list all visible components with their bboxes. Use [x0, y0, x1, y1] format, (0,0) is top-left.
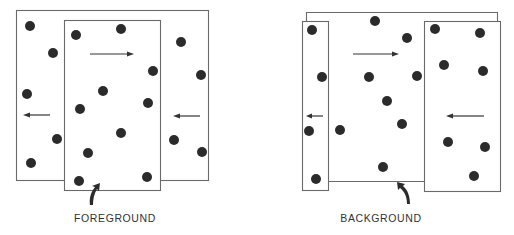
dot — [397, 119, 407, 129]
motion-figure: FOREGROUND — [0, 0, 514, 235]
dot — [364, 72, 374, 82]
dot — [196, 70, 206, 80]
dot — [478, 66, 488, 76]
dot — [307, 25, 317, 35]
dot — [378, 162, 388, 172]
background-label: BACKGROUND — [340, 212, 421, 224]
background-panel: BACKGROUND — [303, 13, 501, 225]
dot — [469, 171, 479, 181]
dot — [443, 137, 453, 147]
dot — [71, 30, 81, 40]
foreground-panel: FOREGROUND — [17, 11, 209, 225]
dot — [430, 24, 440, 34]
foreground-label: FOREGROUND — [74, 212, 156, 224]
dot — [382, 96, 392, 106]
right-arrow-icon — [353, 52, 399, 57]
dot — [22, 89, 32, 99]
dot — [26, 158, 36, 168]
dot — [52, 134, 62, 144]
dot — [335, 125, 345, 135]
right-box — [425, 22, 501, 192]
dot — [475, 28, 485, 38]
background-dots — [335, 16, 422, 172]
pointer-arrow-icon — [397, 182, 410, 204]
dot — [25, 21, 35, 31]
dot — [480, 142, 490, 152]
dot — [74, 176, 84, 186]
dot — [148, 66, 158, 76]
dot — [176, 37, 186, 47]
dot — [83, 148, 93, 158]
dot — [116, 128, 126, 138]
dot — [116, 24, 126, 34]
dot — [402, 33, 412, 43]
dot — [143, 98, 153, 108]
dot — [317, 72, 327, 82]
dot — [169, 135, 179, 145]
dot — [412, 71, 422, 81]
dot — [304, 126, 314, 136]
dot — [48, 48, 58, 58]
background-frame — [307, 13, 498, 22]
dot — [370, 16, 380, 26]
dot — [197, 147, 207, 157]
dot — [311, 174, 321, 184]
dot — [439, 60, 449, 70]
dot — [142, 172, 152, 182]
dot — [75, 104, 85, 114]
left-strip-box — [303, 22, 329, 191]
dot — [98, 86, 108, 96]
